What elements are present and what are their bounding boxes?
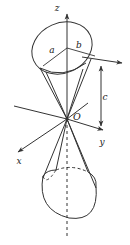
origin-label: O	[73, 111, 81, 122]
upper-cone-group	[24, 13, 101, 119]
upper-cone-slant-inner-left	[46, 72, 67, 119]
lower-cone-slant-inner-left	[56, 119, 67, 170]
origin-point	[66, 118, 69, 121]
height-c-label: c	[102, 92, 107, 102]
lower-cone-slant-left	[43, 119, 67, 178]
x-axis-label: x	[16, 156, 21, 166]
semi-axis-b-label: b	[76, 40, 82, 50]
z-axis-label: z	[54, 3, 60, 13]
x-axis-line	[18, 119, 67, 152]
y-axis-label: y	[98, 137, 105, 147]
lower-ellipse-front-arc	[42, 176, 96, 218]
semi-axis-a-line	[43, 48, 67, 66]
upper-rim-front-arc	[40, 63, 86, 73]
lower-ellipse-back-arc-dashed	[56, 167, 88, 172]
lower-cone-slant-inner-right	[67, 119, 88, 172]
upper-cone-slant-left	[40, 68, 67, 119]
semi-axis-a-label: a	[49, 45, 54, 55]
lower-cone-group	[42, 119, 96, 218]
figure-canvas: z y x O a b c	[0, 0, 130, 245]
elliptical-cone-figure: z y x O a b c	[0, 0, 130, 245]
aux-line-left-horizontal	[14, 106, 67, 119]
c-top-guide-line	[82, 57, 122, 63]
